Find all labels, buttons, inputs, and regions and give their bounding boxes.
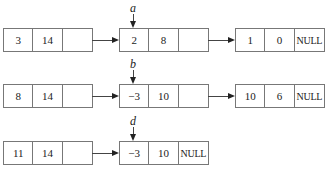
row1-node1-coef: 3 (4, 29, 33, 51)
row1-node1-exp: 14 (33, 29, 62, 51)
row1-node1-next (63, 29, 92, 51)
row2-link2-arrowhead-icon (228, 93, 235, 99)
pointer-d-arrowhead-icon (130, 134, 136, 141)
row3-link1-arrowhead-icon (112, 150, 119, 156)
pointer-label-d: d (130, 115, 136, 127)
row2-node2: −3 10 (119, 84, 209, 108)
row1-node3-next: NULL (295, 29, 324, 51)
row3-node1-coef: 11 (4, 142, 33, 164)
row1-link2-line (208, 40, 228, 41)
row3-node1-exp: 14 (33, 142, 62, 164)
row3-node2-next: NULL (179, 142, 208, 164)
row2-node2-exp: 10 (149, 85, 178, 107)
row1-node3-coef: 1 (236, 29, 265, 51)
row2-node3-next: NULL (295, 85, 324, 107)
row2-link1-line (92, 96, 112, 97)
row2-node3-coef: 10 (236, 85, 265, 107)
pointer-b-arrowhead-icon (130, 77, 136, 84)
row3-node1: 11 14 (3, 141, 93, 165)
row3-node2-exp: 10 (149, 142, 178, 164)
row1-link1-line (92, 40, 112, 41)
row1-node2-exp: 8 (149, 29, 178, 51)
row2-node2-coef: −3 (120, 85, 149, 107)
row1-link1-arrowhead-icon (112, 37, 119, 43)
row1-node2-coef: 2 (120, 29, 149, 51)
row2-node3-exp: 6 (265, 85, 294, 107)
row1-node3: 1 0 NULL (235, 28, 325, 52)
row2-node1: 8 14 (3, 84, 93, 108)
row2-node1-exp: 14 (33, 85, 62, 107)
row1-link2-arrowhead-icon (228, 37, 235, 43)
row2-node1-next (63, 85, 92, 107)
row3-node2: −3 10 NULL (119, 141, 209, 165)
row3-node1-next (63, 142, 92, 164)
row3-link1-line (92, 153, 112, 154)
row3-node2-coef: −3 (120, 142, 149, 164)
row1-node2: 2 8 (119, 28, 209, 52)
row1-node3-exp: 0 (265, 29, 294, 51)
row2-node3: 10 6 NULL (235, 84, 325, 108)
pointer-a-arrowhead-icon (130, 21, 136, 28)
row2-link2-line (208, 96, 228, 97)
pointer-label-b: b (130, 58, 136, 70)
row2-link1-arrowhead-icon (112, 93, 119, 99)
row1-node2-next (179, 29, 208, 51)
row2-node2-next (179, 85, 208, 107)
row1-node1: 3 14 (3, 28, 93, 52)
pointer-label-a: a (130, 2, 136, 14)
row2-node1-coef: 8 (4, 85, 33, 107)
